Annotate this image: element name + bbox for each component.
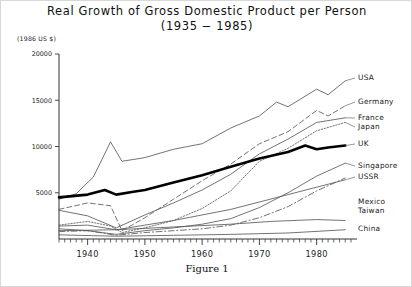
- y-tick-label: 5000: [36, 189, 52, 197]
- series-line-japan: [59, 122, 345, 232]
- y-tick-label: 10000: [32, 143, 52, 151]
- y-tick-label: 15000: [32, 97, 52, 105]
- y-tick-labels-group: 5000100001500020000: [32, 50, 52, 197]
- x-tick-label: 1970: [248, 249, 270, 259]
- series-group: [59, 81, 345, 236]
- figure-caption: Figure 1: [1, 263, 412, 274]
- series-label-france: France: [358, 113, 384, 122]
- series-label-taiwan: Taiwan: [358, 206, 385, 215]
- series-line-france: [59, 118, 345, 228]
- series-line-usa: [59, 81, 345, 199]
- x-tick-labels-group: 19401950196019701980: [76, 249, 327, 259]
- x-tick-label: 1940: [76, 249, 98, 259]
- y-tick-label: 20000: [32, 50, 52, 58]
- leader-lines-group: [345, 78, 355, 180]
- series-label-germany: Germany: [358, 97, 394, 106]
- axes-group: [55, 54, 357, 245]
- x-tick-label: 1960: [191, 249, 213, 259]
- x-tick-label: 1980: [305, 249, 327, 259]
- chart-plot-area: 5000100001500020000 19401950196019701980: [1, 1, 412, 287]
- series-label-usa: USA: [358, 73, 374, 82]
- series-line-taiwan: [59, 178, 345, 235]
- figure-container: Real Growth of Gross Domestic Product pe…: [0, 0, 412, 287]
- series-label-china: China: [358, 224, 380, 233]
- series-label-mexico: Mexico: [358, 197, 385, 206]
- series-label-ussr: USSR: [358, 172, 379, 181]
- x-tick-label: 1950: [134, 249, 156, 259]
- series-line-germany: [59, 106, 345, 231]
- series-line-china: [59, 230, 345, 236]
- series-label-japan: Japan: [358, 122, 380, 131]
- series-label-uk: UK: [358, 139, 369, 148]
- series-label-singapore: Singapore: [358, 161, 398, 170]
